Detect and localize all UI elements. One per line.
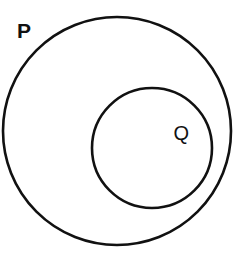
set-label-q: Q [173,123,189,143]
set-label-p: P [17,20,31,41]
euler-diagram: P Q [0,0,238,262]
inner-set-circle-q [92,88,212,208]
diagram-canvas [0,0,238,262]
